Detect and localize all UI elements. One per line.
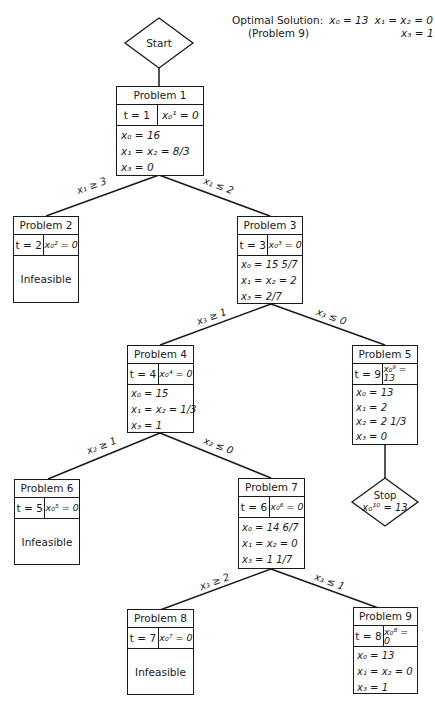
node-title: Problem 1	[117, 87, 203, 105]
node-bound: x₀³ = 0	[268, 235, 302, 255]
node-t: t = 4	[128, 364, 159, 384]
node-t: t = 9	[353, 364, 383, 384]
problem-7-node: Problem 7 t = 6 x₀⁶ = 0 x₀ = 14 6/7 x₁ =…	[238, 478, 305, 569]
node-bound: x₀⁶ = 0	[270, 497, 304, 517]
node-title: Problem 7	[239, 479, 304, 497]
node-t: t = 1	[117, 105, 158, 125]
node-title: Problem 3	[238, 217, 302, 235]
solution-line: x₀ = 15	[131, 386, 190, 402]
node-title: Problem 5	[353, 346, 417, 364]
solution-line: x₁ = x₂ = 8/3	[121, 143, 199, 159]
node-iteration-row: t = 6 x₀⁶ = 0	[239, 497, 304, 518]
solution-line: x₃ = 1	[131, 418, 190, 434]
optimal-solution-note: Optimal Solution: x₀ = 13 x₁ = x₂ = 0 (P…	[232, 14, 434, 40]
solution-line: x₃ = 1 1/7	[242, 552, 301, 568]
node-title: Problem 9	[354, 608, 417, 626]
solution-line: x₁ = x₂ = 1/3	[131, 402, 190, 418]
solution-line: x₃ = 1	[357, 680, 414, 696]
node-bound: x₀² = 0	[44, 235, 78, 255]
node-bound: x₀⁴ = 0	[159, 364, 193, 384]
node-iteration-row: t = 2 x₀² = 0	[14, 235, 78, 256]
node-iteration-row: t = 9 x₀⁹ = 13	[353, 364, 417, 385]
node-bound: x₀⁹ = 13	[383, 364, 417, 384]
node-solution: x₀ = 13 x₁ = x₂ = 0 x₃ = 1	[354, 647, 417, 697]
node-iteration-row: t = 7 x₀⁷ = 0	[128, 628, 193, 649]
node-status: Infeasible	[15, 519, 79, 565]
optimal-x0: x₀ = 13	[329, 14, 368, 27]
problem-5-node: Problem 5 t = 9 x₀⁹ = 13 x₀ = 13 x₁ = 2 …	[352, 345, 418, 445]
solution-line: x₃ = 0	[356, 430, 414, 445]
node-t: t = 7	[128, 628, 159, 648]
node-t: t = 6	[239, 497, 270, 517]
node-t: t = 8	[354, 626, 384, 646]
solution-line: x₁ = x₂ = 0	[242, 536, 301, 552]
solution-line: x₀ = 15 5/7	[241, 257, 299, 273]
node-solution: x₀ = 14 6/7 x₁ = x₂ = 0 x₃ = 1 1/7	[239, 518, 304, 570]
problem-9-node: Problem 9 t = 8 x₀⁸ = 0 x₀ = 13 x₁ = x₂ …	[353, 607, 418, 694]
node-bound: x₀⁷ = 0	[159, 628, 193, 648]
node-solution: x₀ = 16 x₁ = x₂ = 8/3 x₃ = 0	[117, 126, 203, 178]
optimal-x3: x₃ = 1	[355, 27, 434, 40]
node-iteration-row: t = 8 x₀⁸ = 0	[354, 626, 417, 647]
node-t: t = 2	[14, 235, 44, 255]
solution-line: x₀ = 13	[357, 648, 414, 664]
solution-line: x₃ = 0	[121, 159, 199, 175]
node-iteration-row: t = 4 x₀⁴ = 0	[128, 364, 193, 385]
solution-line: x₂ = 2 1/3	[356, 415, 414, 430]
solution-line: x₀ = 16	[121, 127, 199, 143]
stop-label: Stop x₀¹⁰ = 13	[357, 490, 413, 513]
node-t: t = 5	[15, 498, 45, 518]
problem-8-node: Problem 8 t = 7 x₀⁷ = 0 Infeasible	[127, 609, 194, 695]
node-solution: x₀ = 15 x₁ = x₂ = 1/3 x₃ = 1	[128, 385, 193, 435]
node-status: Infeasible	[128, 649, 193, 695]
node-bound: x₀¹ = 0	[158, 105, 203, 125]
solution-line: x₁ = 2	[356, 401, 414, 416]
optimal-source: (Problem 9)	[232, 27, 355, 40]
node-bound: x₀⁵ = 0	[45, 498, 79, 518]
optimal-solution-label: Optimal Solution:	[232, 14, 323, 27]
node-title: Problem 6	[15, 480, 79, 498]
problem-2-node: Problem 2 t = 2 x₀² = 0 Infeasible	[13, 216, 79, 303]
solution-line: x₁ = x₂ = 0	[357, 664, 414, 680]
node-iteration-row: t = 3 x₀³ = 0	[238, 235, 302, 256]
node-title: Problem 4	[128, 346, 193, 364]
start-label: Start	[135, 37, 183, 49]
solution-line: x₃ = 2/7	[241, 289, 299, 305]
node-title: Problem 8	[128, 610, 193, 628]
start-text: Start	[146, 37, 172, 49]
solution-line: x₀ = 13	[356, 386, 414, 401]
solution-line: x₀ = 14 6/7	[242, 520, 301, 536]
node-solution: x₀ = 13 x₁ = 2 x₂ = 2 1/3 x₃ = 0	[353, 385, 417, 445]
stop-text: Stop	[357, 490, 413, 502]
solution-line: x₁ = x₂ = 2	[241, 273, 299, 289]
node-solution: x₀ = 15 5/7 x₁ = x₂ = 2 x₃ = 2/7	[238, 256, 302, 306]
node-iteration-row: t = 1 x₀¹ = 0	[117, 105, 203, 126]
problem-3-node: Problem 3 t = 3 x₀³ = 0 x₀ = 15 5/7 x₁ =…	[237, 216, 303, 304]
problem-6-node: Problem 6 t = 5 x₀⁵ = 0 Infeasible	[14, 479, 80, 565]
node-bound: x₀⁸ = 0	[384, 626, 417, 646]
node-iteration-row: t = 5 x₀⁵ = 0	[15, 498, 79, 519]
problem-1-node: Problem 1 t = 1 x₀¹ = 0 x₀ = 16 x₁ = x₂ …	[116, 86, 204, 176]
node-status: Infeasible	[14, 256, 78, 302]
node-t: t = 3	[238, 235, 268, 255]
node-title: Problem 2	[14, 217, 78, 235]
optimal-x1x2: x₁ = x₂ = 0	[374, 14, 432, 27]
problem-4-node: Problem 4 t = 4 x₀⁴ = 0 x₀ = 15 x₁ = x₂ …	[127, 345, 194, 433]
stop-value: x₀¹⁰ = 13	[357, 502, 413, 514]
